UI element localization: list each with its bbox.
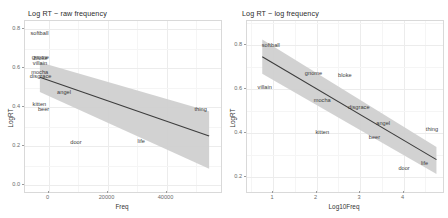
point-label-thing: thing bbox=[426, 126, 438, 132]
figure-container: Log RT ~ raw frequency LogRT 0.8 0.6 0.4… bbox=[0, 0, 448, 218]
panel-left: Log RT ~ raw frequency LogRT 0.8 0.6 0.4… bbox=[0, 0, 224, 218]
point-label-disgrace: disgrace bbox=[30, 73, 52, 79]
point-label-mocha: mocha bbox=[314, 97, 331, 103]
panel-left-xtick-2: 40000 bbox=[158, 194, 174, 200]
point-label-villain: villain bbox=[258, 84, 272, 90]
panel-left-title: Log RT ~ raw frequency bbox=[28, 9, 107, 18]
point-label-beer: beer bbox=[369, 134, 380, 140]
panel-right-title: Log RT ~ log frequency bbox=[242, 9, 319, 18]
panel-left-xtick-1: 20000 bbox=[99, 194, 115, 200]
point-label-softball: softball bbox=[262, 42, 280, 48]
panel-right-xtick-0: 1 bbox=[270, 194, 273, 200]
panel-left-plot-area bbox=[24, 20, 222, 193]
panel-right-ytick-2: 0.4 bbox=[230, 129, 242, 135]
panel-left-xaxis-title: Freq bbox=[115, 203, 128, 210]
panel-right-xaxis-title: Log10Freq bbox=[329, 203, 360, 210]
panel-right-xtick-1: 2 bbox=[314, 194, 317, 200]
point-label-door: door bbox=[70, 139, 81, 145]
point-label-villain: villain bbox=[33, 60, 47, 66]
panel-right-ytick-1: 0.6 bbox=[230, 85, 242, 91]
panel-left-xtick-0: 0 bbox=[46, 194, 49, 200]
point-label-life: life bbox=[138, 138, 145, 144]
panel-right-yaxis-title: LogRT bbox=[229, 108, 236, 127]
point-label-bloke: bloke bbox=[338, 72, 352, 78]
point-label-kitten: kitten bbox=[315, 129, 329, 135]
point-label-thing: thing bbox=[194, 106, 206, 112]
point-label-disgrace: disgrace bbox=[348, 104, 370, 110]
panel-right-xtick-3: 4 bbox=[401, 194, 404, 200]
panel-left-ytick-1: 0.6 bbox=[8, 64, 20, 70]
point-label-door: door bbox=[398, 165, 409, 171]
point-label-angel: angel bbox=[57, 89, 71, 95]
point-label-angel: angel bbox=[376, 120, 390, 126]
point-label-softball: softball bbox=[30, 30, 48, 36]
panel-left-ytick-0: 0.8 bbox=[8, 25, 20, 31]
panel-left-yaxis-title: LogRT bbox=[7, 108, 14, 127]
point-label-gnome: gnome bbox=[305, 70, 322, 76]
panel-right: Log RT ~ log frequency LogRT 0.8 0.6 0.4… bbox=[224, 0, 448, 218]
point-label-life: life bbox=[421, 160, 428, 166]
panel-right-ytick-3: 0.2 bbox=[230, 173, 242, 179]
panel-left-ytick-4: 0.0 bbox=[8, 181, 20, 187]
point-label-beer: beer bbox=[38, 106, 49, 112]
panel-left-ytick-2: 0.4 bbox=[8, 103, 20, 109]
panel-right-ytick-0: 0.8 bbox=[230, 41, 242, 47]
panel-right-xtick-2: 3 bbox=[357, 194, 360, 200]
panel-left-ytick-3: 0.2 bbox=[8, 142, 20, 148]
panel-left-fit-line bbox=[25, 21, 221, 192]
